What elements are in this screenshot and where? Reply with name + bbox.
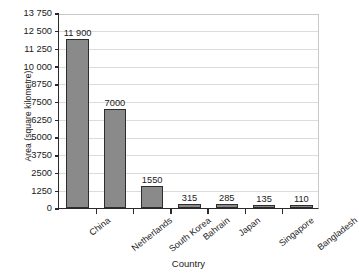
x-axis-tick-label: Singapore [278, 216, 316, 248]
x-axis-tick-label: Japan [237, 216, 262, 238]
x-axis-tick-label: Bangladesh [316, 216, 359, 252]
x-axis-title: Country [58, 258, 319, 269]
x-axis-tick-label: China [88, 216, 112, 238]
